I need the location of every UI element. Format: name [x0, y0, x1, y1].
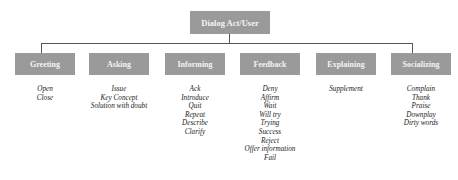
item: Offer information: [225, 145, 315, 154]
item: Downplay: [376, 111, 458, 120]
item: Complain: [376, 85, 458, 94]
item: Reject: [225, 137, 315, 146]
item: Affirm: [225, 94, 315, 103]
category-socializing: Socializing: [391, 53, 451, 75]
root-node-dialog-act-user: Dialog Act/User: [190, 11, 270, 34]
connector-socializing: [412, 43, 413, 53]
item: Fail: [225, 154, 315, 163]
item: Praise: [376, 102, 458, 111]
item: Dirty words: [376, 119, 458, 128]
item: Success: [225, 128, 315, 137]
root-connector: [229, 34, 230, 43]
item: Trying: [225, 119, 315, 128]
connector-greeting: [41, 43, 42, 53]
category-explaining: Explaining: [316, 53, 376, 75]
category-informing: Informing: [165, 53, 225, 75]
item: Thank: [376, 94, 458, 103]
category-asking: Asking: [89, 53, 149, 75]
feedback-items: Deny Affirm Wait Will try Trying Success…: [225, 85, 315, 162]
item: Wait: [225, 102, 315, 111]
category-feedback: Feedback: [240, 53, 300, 75]
horizontal-connector: [41, 43, 413, 44]
item: Will try: [225, 111, 315, 120]
socializing-items: Complain Thank Praise Downplay Dirty wor…: [376, 85, 458, 128]
category-greeting: Greeting: [15, 53, 75, 75]
